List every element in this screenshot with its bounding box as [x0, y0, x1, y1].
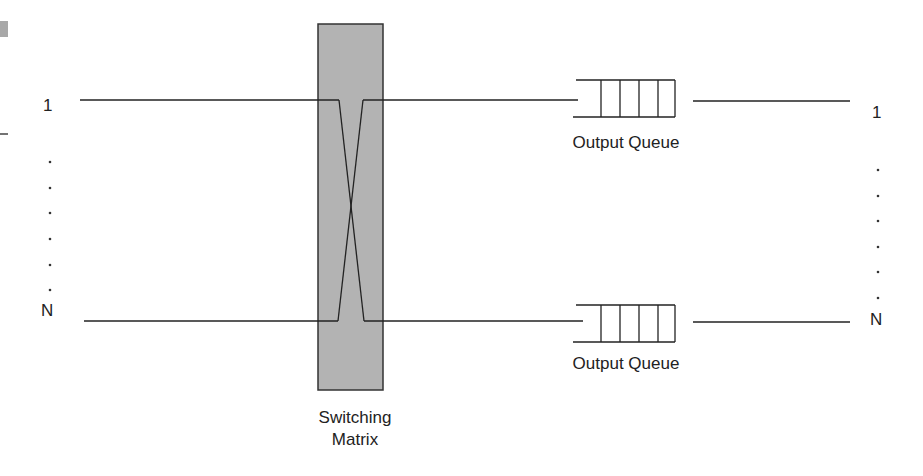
output-label-n: N — [870, 310, 882, 330]
corner-mark — [0, 21, 8, 37]
output-queue-n-label: Output Queue — [573, 354, 680, 374]
input-label-n: N — [41, 301, 53, 321]
output-queue-1 — [573, 80, 675, 117]
switching-matrix-label-line2: Matrix — [332, 430, 378, 450]
output-ellipsis — [877, 169, 880, 300]
input-label-1: 1 — [43, 96, 52, 116]
switch-diagram — [0, 0, 923, 476]
output-queue-1-label: Output Queue — [573, 133, 680, 153]
input-ellipsis — [49, 161, 52, 292]
output-queue-n — [573, 305, 675, 342]
switching-matrix-label-line1: Switching — [319, 408, 392, 428]
output-label-1: 1 — [872, 103, 881, 123]
